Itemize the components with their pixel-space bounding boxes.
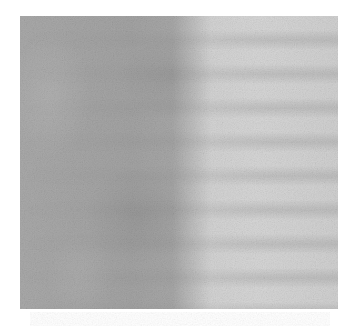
grain-noise (20, 16, 338, 309)
image-canvas (0, 0, 358, 330)
texture-panel (20, 16, 338, 309)
faint-bottom-noise (30, 312, 330, 326)
